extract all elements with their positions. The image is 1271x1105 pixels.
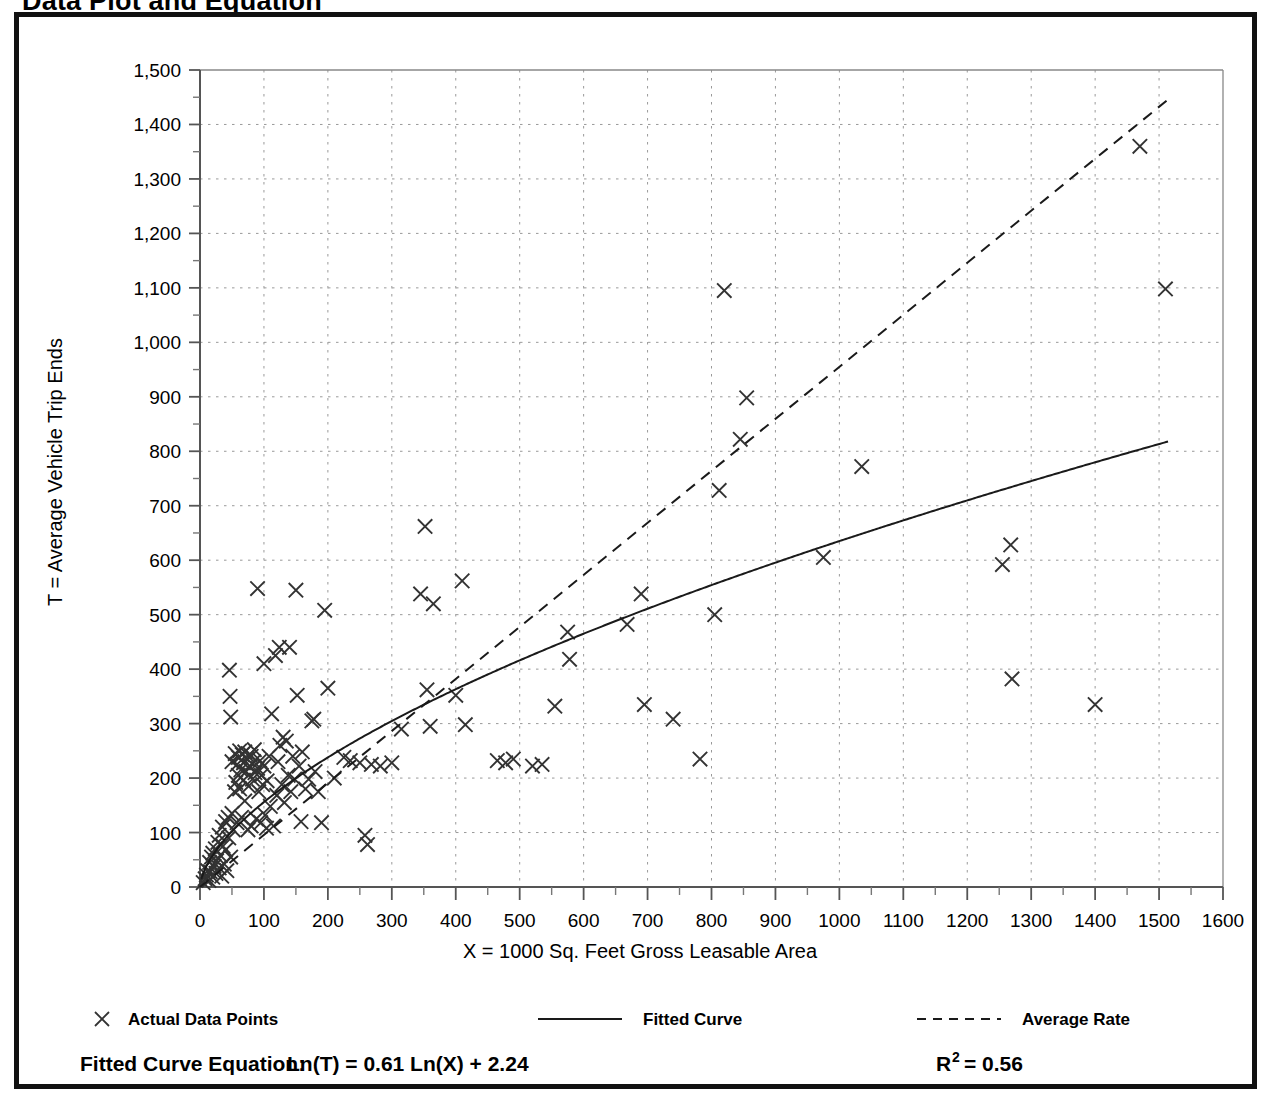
data-point-marker [535, 757, 549, 771]
data-point-marker [458, 717, 472, 731]
x-axis-tick-label: 600 [568, 910, 600, 931]
x-axis-title: X = 1000 Sq. Feet Gross Leasable Area [463, 940, 818, 962]
axis-layer [189, 70, 1223, 900]
fitted-curve-line [201, 442, 1168, 880]
x-axis-tick-label: 700 [632, 910, 664, 931]
data-point-marker [634, 587, 648, 601]
data-point-marker [816, 550, 830, 564]
y-axis-tick-label: 200 [149, 768, 181, 789]
data-point-marker [423, 719, 437, 733]
y-axis-tick-label: 1,500 [133, 60, 181, 81]
data-point-marker [1158, 282, 1172, 296]
data-point-marker [264, 707, 278, 721]
data-point-marker [321, 681, 335, 695]
x-axis-tick-label: 1300 [1010, 910, 1052, 931]
average-rate-line [200, 99, 1169, 887]
x-axis-tick-label: 900 [760, 910, 792, 931]
figure-page: Data Plot and Equation 01002003004005006… [0, 0, 1271, 1105]
x-axis-tick-label: 1100 [883, 910, 924, 931]
data-point-marker [666, 712, 680, 726]
data-point-marker [855, 459, 869, 473]
data-points-layer [196, 139, 1173, 890]
data-point-marker [562, 652, 576, 666]
legend-label-0: Actual Data Points [128, 1010, 278, 1029]
data-point-marker [455, 574, 469, 588]
data-point-marker [1088, 697, 1102, 711]
data-point-marker [707, 607, 721, 621]
fitted-curve-equation-value: Ln(T) = 0.61 Ln(X) + 2.24 [287, 1052, 529, 1075]
data-point-marker [548, 699, 562, 713]
x-axis-tick-label: 0 [195, 910, 206, 931]
data-point-marker [1004, 538, 1018, 552]
data-point-marker [222, 663, 236, 677]
chart-legend: Actual Data Points Fitted Curve Average … [95, 1010, 1130, 1029]
y-axis-tick-label: 900 [149, 387, 181, 408]
data-point-marker [420, 683, 434, 697]
data-point-marker [289, 583, 303, 597]
x-axis-tick-label: 400 [440, 910, 472, 931]
data-point-marker [733, 432, 747, 446]
legend-item-actual-data-points: Actual Data Points [95, 1010, 278, 1029]
x-marker-icon [95, 1012, 109, 1026]
y-axis-tick-label: 600 [149, 550, 181, 571]
scatter-chart: 01002003004005006007008009001,0001,1001,… [19, 17, 1262, 1094]
x-axis-tick-label: 1200 [946, 910, 988, 931]
x-axis-tick-label: 100 [248, 910, 280, 931]
data-point-marker [995, 557, 1009, 571]
data-point-marker [238, 794, 252, 808]
y-axis-tick-label: 500 [149, 605, 181, 626]
data-point-marker [298, 782, 312, 796]
x-axis-tick-label: 1500 [1138, 910, 1180, 931]
r-squared-value: = 0.56 [964, 1052, 1023, 1075]
y-axis-tick-label: 1,300 [133, 169, 181, 190]
x-axis-tick-label: 1000 [818, 910, 860, 931]
data-point-marker [294, 814, 308, 828]
data-point-marker [290, 688, 304, 702]
data-point-marker [358, 828, 372, 842]
y-axis-tick-label: 1,000 [133, 332, 181, 353]
x-axis-tick-label: 1400 [1074, 910, 1116, 931]
chart-canvas: 01002003004005006007008009001,0001,1001,… [19, 17, 1262, 1094]
x-axis-tick-label: 200 [312, 910, 344, 931]
y-axis-tick-label: 400 [149, 659, 181, 680]
data-point-marker [260, 774, 274, 788]
curves-layer [200, 99, 1169, 887]
legend-label-1: Fitted Curve [643, 1010, 742, 1029]
r-squared-exponent: 2 [952, 1049, 960, 1065]
data-point-marker [257, 656, 271, 670]
fitted-curve-equation-label: Fitted Curve Equation: [80, 1052, 305, 1075]
data-point-marker [292, 759, 306, 773]
data-point-marker [426, 597, 440, 611]
x-axis-tick-label: 500 [504, 910, 536, 931]
data-point-marker [1133, 139, 1147, 153]
figure-frame: 01002003004005006007008009001,0001,1001,… [14, 12, 1257, 1089]
data-point-marker [223, 710, 237, 724]
equation-row: Fitted Curve Equation: Ln(T) = 0.61 Ln(X… [80, 1049, 1023, 1075]
data-point-marker [271, 755, 285, 769]
y-axis-tick-label: 300 [149, 714, 181, 735]
data-point-marker [693, 752, 707, 766]
r-squared-label: R [936, 1052, 951, 1075]
legend-item-fitted-curve: Fitted Curve [538, 1010, 742, 1029]
y-axis-title: T = Average Vehicle Trip Ends [44, 338, 66, 606]
data-point-marker [223, 689, 237, 703]
data-point-marker [712, 483, 726, 497]
data-point-marker [360, 837, 374, 851]
data-point-marker [739, 391, 753, 405]
x-axis-tick-label: 300 [376, 910, 408, 931]
data-point-marker [413, 587, 427, 601]
data-point-marker [317, 603, 331, 617]
data-point-marker [717, 283, 731, 297]
data-point-marker [637, 697, 651, 711]
data-point-marker [373, 759, 387, 773]
data-point-marker [1005, 672, 1019, 686]
data-point-marker [314, 816, 328, 830]
data-point-marker [307, 712, 321, 726]
y-axis-tick-label: 1,100 [133, 278, 181, 299]
x-axis-tick-label: 1600 [1202, 910, 1244, 931]
legend-item-average-rate: Average Rate [917, 1010, 1130, 1029]
x-axis-tick-label: 800 [696, 910, 728, 931]
data-point-marker [282, 640, 296, 654]
data-point-marker [418, 519, 432, 533]
legend-label-2: Average Rate [1022, 1010, 1130, 1029]
